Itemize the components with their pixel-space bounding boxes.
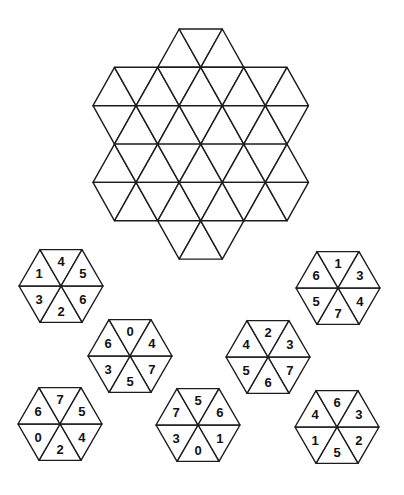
sector-number-top: 6 xyxy=(333,395,340,410)
sector-number-bottom-left: 3 xyxy=(36,292,43,307)
sector-number-bottom-left: 1 xyxy=(312,433,319,448)
sector-number-bottom-right: 7 xyxy=(148,362,155,377)
sector-number-top-right: 4 xyxy=(148,336,156,351)
sector-number-bottom: 2 xyxy=(56,442,63,457)
sector-number-bottom-right: 2 xyxy=(355,433,362,448)
sector-number-bottom-left: 0 xyxy=(35,430,42,445)
sector-number-top-left: 6 xyxy=(105,336,112,351)
sector-number-top-right: 3 xyxy=(286,337,293,352)
sector-number-bottom: 0 xyxy=(194,443,201,458)
sector-number-top-right: 5 xyxy=(79,266,86,281)
sector-number-top-left: 4 xyxy=(312,407,320,422)
sector-number-top-right: 5 xyxy=(78,404,85,419)
sector-number-top: 5 xyxy=(194,393,201,408)
sector-number-bottom-left: 5 xyxy=(243,363,250,378)
sector-number-top: 4 xyxy=(57,254,65,269)
sector-number-bottom-left: 3 xyxy=(173,431,180,446)
sector-number-bottom: 2 xyxy=(57,304,64,319)
sector-number-top-left: 4 xyxy=(243,337,251,352)
sector-number-top: 2 xyxy=(264,325,271,340)
sector-number-top: 0 xyxy=(126,324,133,339)
sector-number-bottom: 7 xyxy=(334,306,341,321)
sector-number-top-left: 1 xyxy=(36,266,43,281)
sector-number-bottom-left: 3 xyxy=(105,362,112,377)
sector-number-bottom-right: 4 xyxy=(356,294,364,309)
sector-number-bottom: 5 xyxy=(333,445,340,460)
sector-number-bottom: 6 xyxy=(264,375,271,390)
puzzle-canvas: 4562311347560475362376547542065610376325… xyxy=(0,0,404,495)
sector-number-top-left: 7 xyxy=(173,405,180,420)
sector-number-top-left: 6 xyxy=(35,404,42,419)
sector-number-bottom-right: 4 xyxy=(78,430,86,445)
sector-number-bottom-left: 5 xyxy=(313,294,320,309)
sector-number-top-right: 6 xyxy=(216,405,223,420)
sector-number-top-right: 3 xyxy=(355,407,362,422)
sector-number-top: 7 xyxy=(56,392,63,407)
sector-number-top-left: 6 xyxy=(313,268,320,283)
sector-number-top: 1 xyxy=(334,256,341,271)
sector-number-bottom: 5 xyxy=(126,374,133,389)
sector-number-bottom-right: 6 xyxy=(79,292,86,307)
sector-number-bottom-right: 7 xyxy=(286,363,293,378)
sector-number-top-right: 3 xyxy=(356,268,363,283)
sector-number-bottom-right: 1 xyxy=(216,431,223,446)
